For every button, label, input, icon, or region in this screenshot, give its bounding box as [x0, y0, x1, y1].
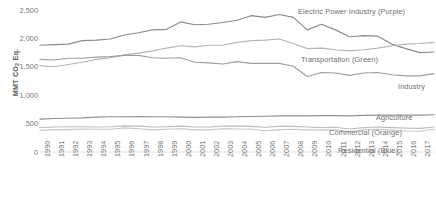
x-axis-tick-2004: 2004	[240, 141, 249, 157]
x-axis-tick-1993: 1993	[85, 141, 94, 157]
x-axis-tick-2006: 2006	[268, 141, 277, 157]
x-axis-tick-1994: 1994	[99, 141, 108, 157]
x-axis-tick-2008: 2008	[296, 141, 305, 157]
x-axis-tick-2001: 2001	[198, 141, 207, 157]
series-label-residential: Residential (Blue)	[338, 146, 398, 155]
series-label-agriculture: Agriculture	[376, 113, 412, 122]
x-axis-tick-2000: 2000	[184, 141, 193, 157]
x-axis-tick-2007: 2007	[282, 141, 291, 157]
x-axis-tick-1997: 1997	[142, 141, 151, 157]
x-axis-tick-1991: 1991	[57, 141, 66, 157]
x-axis-tick-2002: 2002	[212, 141, 221, 157]
x-axis-tick-labels: 1990199119921993199419951996199719981999…	[0, 0, 436, 197]
x-axis-tick-1999: 1999	[170, 141, 179, 157]
x-axis-tick-1995: 1995	[113, 141, 122, 157]
x-axis-tick-2003: 2003	[226, 141, 235, 157]
series-label-industry: Industry	[398, 82, 425, 91]
x-axis-tick-2016: 2016	[409, 141, 418, 157]
x-axis-tick-1996: 1996	[127, 141, 136, 157]
series-label-commercial: Commercial (Orange)	[329, 128, 402, 137]
series-label-electric-power-industry: Electric Power Industry (Purple)	[298, 7, 405, 16]
x-axis-tick-2005: 2005	[254, 141, 263, 157]
x-axis-tick-2017: 2017	[423, 141, 432, 157]
emissions-line-chart: MMT CO2 Eq. 05001,0001,5002,0002,500 199…	[0, 0, 436, 197]
x-axis-tick-1998: 1998	[156, 141, 165, 157]
x-axis-tick-1990: 1990	[43, 141, 52, 157]
x-axis-tick-2009: 2009	[310, 141, 319, 157]
x-axis-tick-1992: 1992	[71, 141, 80, 157]
series-label-transportation: Transportation (Green)	[301, 55, 378, 64]
x-axis-tick-2010: 2010	[324, 141, 333, 157]
